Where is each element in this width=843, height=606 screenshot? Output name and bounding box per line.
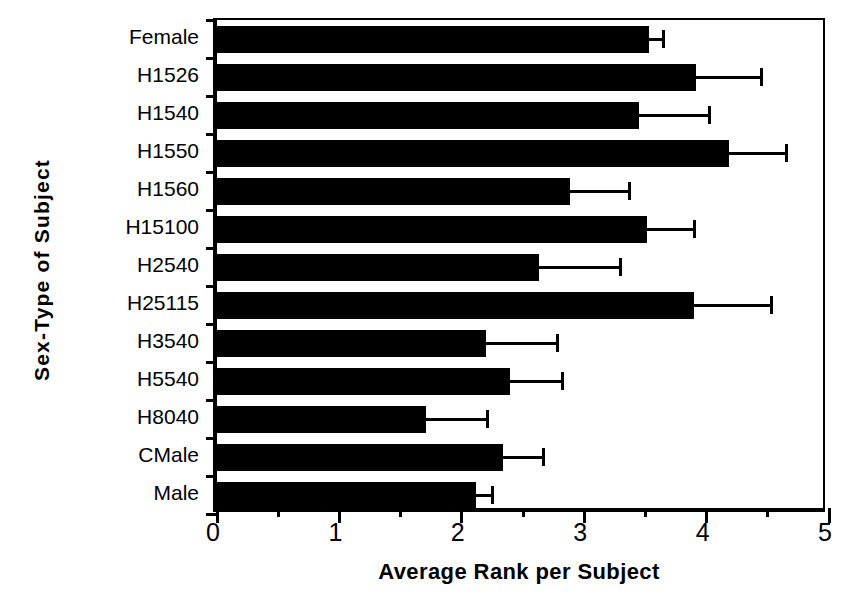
error-bar-line (539, 266, 621, 269)
error-bar-cap (770, 296, 773, 314)
y-axis-tick (206, 133, 217, 136)
y-axis-tick (206, 285, 217, 288)
error-bar-cap (662, 30, 665, 48)
y-axis-tick (206, 323, 217, 326)
y-axis-tick (206, 57, 217, 60)
bar (217, 140, 729, 167)
y-axis-tick-label: H1560 (137, 178, 199, 199)
y-axis-tick-label: Male (153, 482, 199, 503)
y-axis-tick (206, 437, 217, 440)
bar (217, 178, 570, 205)
error-bar-line (639, 114, 709, 117)
error-bar-cap (785, 144, 788, 162)
bar (217, 406, 426, 433)
error-bar-cap (561, 372, 564, 390)
bar (217, 216, 647, 243)
x-axis-tick-minor (522, 508, 525, 517)
y-axis-tick (206, 247, 217, 250)
error-bar-line (426, 418, 487, 421)
error-bar-cap (628, 182, 631, 200)
y-axis-tick (206, 95, 217, 98)
y-axis-tick-label: H3540 (137, 330, 199, 351)
plot-area (213, 18, 825, 512)
y-axis-tick-label: H8040 (137, 406, 199, 427)
y-axis-tick-label: H1526 (137, 64, 199, 85)
bar-chart: Sex-Type of Subject FemaleH1526H1540H155… (0, 0, 843, 606)
y-axis-tick (206, 475, 217, 478)
y-axis-tick-labels: FemaleH1526H1540H1550H1560H15100H2540H25… (55, 18, 205, 508)
x-axis-tick-label: 0 (193, 520, 233, 545)
y-axis-tick-label: H5540 (137, 368, 199, 389)
x-axis-tick-label: 5 (805, 520, 843, 545)
bar (217, 482, 476, 509)
bar (217, 26, 649, 53)
x-axis-tick-minor (644, 508, 647, 517)
bar (217, 254, 539, 281)
x-axis-title: Average Rank per Subject (213, 559, 825, 585)
bar (217, 368, 510, 395)
x-axis-tick-minor (766, 508, 769, 517)
x-axis-tick-label: 3 (560, 520, 600, 545)
bar (217, 292, 694, 319)
error-bar-cap (760, 68, 763, 86)
error-bar-line (486, 342, 557, 345)
error-bar-line (510, 380, 563, 383)
error-bar-line (696, 76, 762, 79)
error-bar-cap (619, 258, 622, 276)
error-bar-cap (542, 448, 545, 466)
x-axis-tick-label: 4 (683, 520, 723, 545)
bar (217, 330, 486, 357)
error-bar-cap (491, 486, 494, 504)
bar (217, 444, 503, 471)
y-axis-tick (206, 361, 217, 364)
error-bar-cap (486, 410, 489, 428)
y-axis-tick-label: CMale (138, 444, 199, 465)
bar (217, 102, 639, 129)
error-bar-cap (556, 334, 559, 352)
error-bar-cap (693, 220, 696, 238)
y-axis-tick-label: H2540 (137, 254, 199, 275)
y-axis-tick-label: Female (129, 26, 199, 47)
y-axis-tick (206, 19, 217, 22)
error-bar-line (570, 190, 630, 193)
error-bar-line (729, 152, 787, 155)
y-axis-tick-label: H25115 (127, 292, 199, 313)
x-axis-tick-label: 2 (438, 520, 478, 545)
bars-layer (217, 20, 823, 508)
y-axis-tick-label: H1550 (137, 140, 199, 161)
y-axis-tick (206, 399, 217, 402)
x-axis-tick-label: 1 (315, 520, 355, 545)
error-bar-line (503, 456, 543, 459)
x-axis-tick-minor (277, 508, 280, 517)
x-axis-tick-minor (399, 508, 402, 517)
error-bar-line (647, 228, 695, 231)
error-bar-line (694, 304, 771, 307)
y-axis-tick (206, 171, 217, 174)
y-axis-tick-label: H15100 (125, 216, 199, 237)
y-axis-title: Sex-Type of Subject (30, 120, 54, 420)
bar (217, 64, 696, 91)
y-axis-tick-label: H1540 (137, 102, 199, 123)
y-axis-tick (206, 209, 217, 212)
error-bar-cap (708, 106, 711, 124)
